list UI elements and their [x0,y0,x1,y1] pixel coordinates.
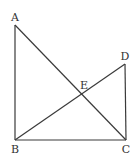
segment-bd [15,64,125,140]
label-e: E [80,79,88,92]
geometry-diagram: A B C D E [0,0,140,158]
label-a: A [10,11,20,24]
label-b: B [11,143,19,156]
segment-dc [125,64,126,140]
diagram-svg: A B C D E [0,0,140,158]
segment-ac [15,25,126,140]
label-c: C [122,143,130,156]
label-d: D [121,50,130,63]
